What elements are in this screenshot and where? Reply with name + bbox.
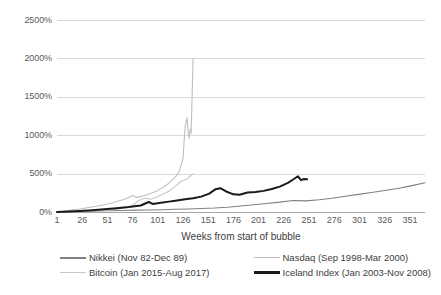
series-plot [57,20,425,212]
x-tick-label: 301 [352,215,367,225]
y-axis: 2500% 2000% 1500% 1000% 500% 0% [0,20,52,212]
legend-label-nikkei: Nikkei (Nov 82-Dec 89) [89,252,187,263]
legend-item-nikkei[interactable]: Nikkei (Nov 82-Dec 89) [52,250,247,265]
x-tick-label: 251 [302,215,317,225]
legend-swatch-bitcoin [60,272,86,274]
x-axis: 1265176101126151176201226251276301326351 [57,215,425,229]
x-tick-label: 26 [77,215,87,225]
x-tick-label: 126 [175,215,190,225]
legend-swatch-iceland [254,271,280,274]
x-tick-label: 326 [377,215,392,225]
legend-swatch-nasdaq [254,257,280,259]
x-tick-label: 51 [102,215,112,225]
y-tick-label: 1500% [4,92,52,101]
legend-row: Bitcoin (Jan 2015-Aug 2017) Iceland Inde… [52,265,441,280]
x-tick-label: 176 [226,215,241,225]
x-tick-label: 351 [402,215,417,225]
legend-item-nasdaq[interactable]: Nasdaq (Sep 1998-Mar 2000) [247,250,441,265]
y-tick-label: 2000% [4,54,52,63]
legend-item-iceland[interactable]: Iceland Index (Jan 2003-Nov 2008) [247,265,441,280]
legend-label-bitcoin: Bitcoin (Jan 2015-Aug 2017) [89,267,209,278]
y-tick-label: 1000% [4,131,52,140]
y-tick-label: 500% [4,169,52,178]
y-tick-label: 0% [4,208,52,217]
plot-area [57,20,425,212]
chart-legend: Nikkei (Nov 82-Dec 89) Nasdaq (Sep 1998-… [52,250,441,284]
legend-item-bitcoin[interactable]: Bitcoin (Jan 2015-Aug 2017) [52,265,247,280]
legend-swatch-nikkei [60,257,86,259]
x-tick-label: 276 [327,215,342,225]
legend-row: Nikkei (Nov 82-Dec 89) Nasdaq (Sep 1998-… [52,250,441,265]
x-tick-label: 1 [54,215,59,225]
axis-baseline-0 [57,212,425,213]
legend-label-iceland: Iceland Index (Jan 2003-Nov 2008) [283,267,431,278]
y-tick-label: 2500% [4,16,52,25]
x-tick-label: 151 [201,215,216,225]
x-tick-label: 201 [251,215,266,225]
chart-container: 2500% 2000% 1500% 1000% 500% 0% [0,0,441,295]
x-tick-label: 101 [150,215,165,225]
legend-label-nasdaq: Nasdaq (Sep 1998-Mar 2000) [283,252,409,263]
x-axis-title: Weeks from start of bubble [57,231,425,243]
x-tick-label: 76 [128,215,138,225]
x-tick-label: 226 [276,215,291,225]
